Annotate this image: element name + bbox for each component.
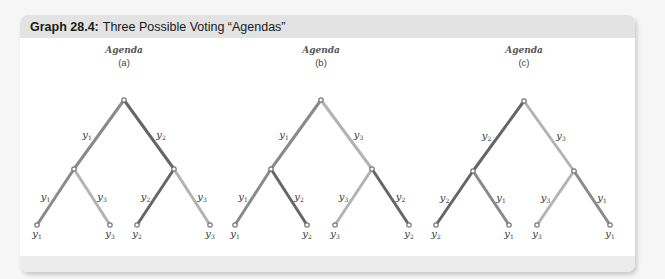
branch-label: y1	[495, 192, 505, 204]
branch-label: y1	[278, 129, 288, 141]
branch-top-right	[524, 101, 574, 171]
agenda-subtitle: (a)	[118, 57, 130, 68]
agenda-title: Agenda	[504, 45, 543, 55]
leaf-label: y2	[131, 228, 142, 240]
leaf-node	[608, 223, 612, 227]
mid-node-right	[370, 167, 374, 171]
leaf-label: y1	[503, 228, 513, 240]
leaf-label: y2	[301, 228, 312, 240]
root-node	[122, 98, 126, 102]
branch-label: y3	[555, 130, 566, 142]
leaf-node	[434, 223, 438, 227]
leaf-node	[233, 223, 237, 227]
leaf-node	[305, 223, 309, 227]
branch-label: y1	[40, 191, 50, 203]
mid-node-right	[172, 167, 176, 171]
branch-label: y1	[596, 192, 606, 204]
mid-node-left	[72, 167, 76, 171]
leaf-label: y1	[229, 228, 239, 240]
leaf-node	[407, 223, 411, 227]
branch-label: y3	[338, 191, 349, 203]
mid-node-right	[572, 169, 576, 173]
agenda-subtitle: (c)	[518, 57, 529, 68]
branch-label: y3	[96, 191, 107, 203]
branch-label: y2	[293, 191, 304, 203]
mid-node-left	[471, 169, 475, 173]
agenda-tree-a: Agenda(a)y1y2y1y3y2y3y1y3y2y3	[31, 45, 215, 240]
leaf-node	[507, 223, 511, 227]
leaf-label: y1	[31, 228, 41, 240]
leaf-node	[108, 223, 112, 227]
leaf-label: y1	[604, 228, 614, 240]
leaf-node	[135, 223, 139, 227]
branch-label: y3	[353, 129, 364, 141]
agenda-tree-c: Agenda(c)y2y3y2y1y3y1y2y1y3y1	[430, 45, 614, 240]
branch-label: y1	[237, 191, 247, 203]
mid-node-left	[269, 167, 273, 171]
leaf-label: y3	[329, 228, 340, 240]
branch-top-left	[473, 101, 524, 171]
voting-agenda-diagram: Agenda(a)y1y2y1y3y2y3y1y3y2y3Agenda(b)y1…	[0, 0, 665, 279]
agenda-subtitle: (b)	[315, 57, 327, 68]
leaf-node	[535, 223, 539, 227]
branch-label: y2	[481, 130, 492, 142]
leaf-label: y2	[403, 228, 414, 240]
leaf-label: y3	[104, 228, 115, 240]
leaf-label: y2	[430, 228, 441, 240]
branch-label: y3	[540, 192, 551, 204]
branch-label: y2	[155, 129, 166, 141]
agenda-tree-b: Agenda(b)y1y3y1y2y3y2y1y2y3y2	[229, 45, 414, 240]
leaf-node	[35, 223, 39, 227]
leaf-node	[333, 223, 337, 227]
root-node	[522, 99, 526, 103]
branch-label: y2	[140, 191, 151, 203]
agenda-title: Agenda	[104, 45, 143, 55]
branch-label: y3	[196, 191, 207, 203]
leaf-label: y3	[204, 228, 215, 240]
leaf-node	[208, 223, 212, 227]
branch-top-right	[321, 100, 372, 169]
branch-top-right	[124, 100, 174, 169]
branch-label: y2	[395, 191, 406, 203]
branch-label: y1	[81, 129, 91, 141]
agenda-title: Agenda	[301, 45, 340, 55]
root-node	[319, 98, 323, 102]
leaf-label: y3	[531, 228, 542, 240]
branch-label: y2	[439, 192, 450, 204]
